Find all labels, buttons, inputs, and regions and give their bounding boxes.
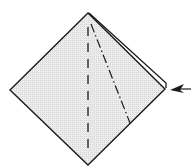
origami-diagram bbox=[0, 0, 191, 167]
push-arrow-icon bbox=[170, 84, 191, 93]
